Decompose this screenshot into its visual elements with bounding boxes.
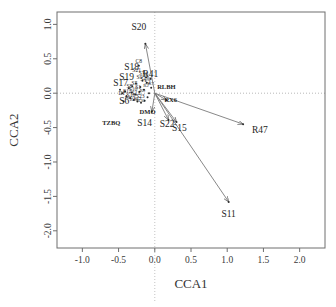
data-point bbox=[150, 87, 152, 89]
arrow-label: R47 bbox=[252, 125, 268, 135]
x-tick-label: 2.0 bbox=[294, 255, 306, 265]
data-point bbox=[147, 96, 149, 98]
data-point bbox=[148, 92, 150, 94]
x-tick-label: 1.5 bbox=[257, 255, 269, 265]
y-tick-label: -0.5 bbox=[43, 120, 53, 135]
point-label: R7 bbox=[148, 81, 154, 86]
y-tick-label: -1.5 bbox=[43, 189, 53, 204]
arrow-label: S11 bbox=[221, 209, 236, 219]
arrow-label: S20 bbox=[131, 22, 146, 32]
point-label: R30 bbox=[137, 98, 146, 103]
arrow-label: S22 bbox=[160, 119, 175, 129]
x-axis-title: CCA1 bbox=[174, 276, 207, 291]
arrow-label: RX6 bbox=[164, 96, 177, 103]
data-point bbox=[228, 201, 230, 203]
x-tick-label: 0.0 bbox=[149, 255, 161, 265]
arrow-label: DMO bbox=[140, 108, 156, 115]
y-tick-label: 1.0 bbox=[43, 18, 53, 30]
x-tick-label: 1.0 bbox=[221, 255, 233, 265]
cca-biplot: -1.0-0.50.00.51.01.52.0 1.00.50.0-0.5-1.… bbox=[0, 0, 336, 307]
y-tick-label: 0.0 bbox=[43, 87, 53, 99]
y-tick-label: 0.5 bbox=[43, 53, 53, 65]
x-tick-label: 0.5 bbox=[185, 255, 197, 265]
point-label: TZBQ bbox=[102, 119, 120, 126]
chart-canvas: -1.0-0.50.00.51.01.52.0 1.00.50.0-0.5-1.… bbox=[0, 0, 336, 307]
point-label: R9 bbox=[140, 88, 146, 93]
point-label: R23 bbox=[125, 95, 134, 100]
point-label: RLBH bbox=[157, 83, 175, 90]
chart-background bbox=[0, 0, 336, 307]
data-point bbox=[144, 43, 146, 45]
x-tick-label: -0.5 bbox=[111, 255, 126, 265]
data-point bbox=[242, 123, 244, 125]
x-tick-label: -1.0 bbox=[75, 255, 90, 265]
y-axis-title: CCA2 bbox=[6, 113, 21, 146]
y-tick-label: -1.0 bbox=[43, 154, 53, 169]
y-tick-label: -2.0 bbox=[43, 223, 53, 238]
point-label: C8 bbox=[136, 58, 143, 64]
point-label: S14 bbox=[137, 118, 152, 128]
